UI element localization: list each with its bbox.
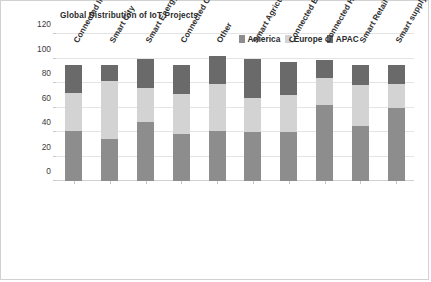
bar-segment-apac[interactable] <box>137 59 154 88</box>
gridline <box>56 58 414 59</box>
stacked-bar[interactable] <box>173 65 190 181</box>
y-axis-tick-label: 20 <box>42 142 51 152</box>
stacked-bar[interactable] <box>244 59 261 182</box>
bar-segment-europe[interactable] <box>244 98 261 132</box>
x-axis-tick-mark <box>146 181 147 184</box>
bar-segment-apac[interactable] <box>352 65 369 86</box>
x-axis-tick-label: Smart Retail <box>358 0 390 45</box>
bar-segment-europe[interactable] <box>65 93 82 131</box>
bar-segment-america[interactable] <box>244 132 261 181</box>
bar-segment-apac[interactable] <box>101 65 118 81</box>
x-axis-tick-mark <box>289 181 290 184</box>
x-axis-tick-mark <box>74 181 75 184</box>
bar-segment-america[interactable] <box>65 131 82 181</box>
x-axis-tick-mark <box>217 181 218 184</box>
plot-area: 120100806040200 Connected IndustrySmart … <box>56 34 414 181</box>
stacked-bar[interactable] <box>280 62 297 181</box>
stacked-bar[interactable] <box>65 65 82 181</box>
x-axis-tick-mark <box>360 181 361 184</box>
stacked-bar[interactable] <box>316 60 333 181</box>
stacked-bar[interactable] <box>101 65 118 181</box>
bar-segment-europe[interactable] <box>388 84 405 107</box>
y-axis-tick-label: 100 <box>37 44 51 54</box>
x-axis-tick-mark <box>325 181 326 184</box>
y-axis-tick-mark <box>53 82 56 83</box>
y-axis-tick-label: 0 <box>46 166 51 176</box>
stacked-bar[interactable] <box>352 65 369 181</box>
y-axis-tick-label: 120 <box>37 19 51 29</box>
bar-segment-america[interactable] <box>316 105 333 181</box>
bar-segment-apac[interactable] <box>244 59 261 98</box>
y-axis-tick-mark <box>53 107 56 108</box>
y-axis-tick-label: 80 <box>42 68 51 78</box>
x-axis-tick-mark <box>253 181 254 184</box>
bar-segment-europe[interactable] <box>101 81 118 140</box>
bar-segment-europe[interactable] <box>352 85 369 125</box>
y-axis-tick-label: 60 <box>42 93 51 103</box>
stacked-bar[interactable] <box>388 65 405 181</box>
bar-segment-apac[interactable] <box>209 56 226 84</box>
bar-segment-europe[interactable] <box>137 88 154 122</box>
bar-segment-apac[interactable] <box>280 62 297 95</box>
y-axis-tick-mark <box>53 33 56 34</box>
bar-segment-europe[interactable] <box>280 95 297 132</box>
bar-segment-apac[interactable] <box>173 65 190 94</box>
x-axis-tick-mark <box>181 181 182 184</box>
bar-segment-america[interactable] <box>280 132 297 181</box>
bar-segment-apac[interactable] <box>65 65 82 93</box>
stacked-bar[interactable] <box>137 59 154 182</box>
bar-segment-europe[interactable] <box>316 78 333 105</box>
y-axis-tick-mark <box>53 156 56 157</box>
x-axis-tick-label: Smart Energy <box>144 0 179 45</box>
chart-container: Global Distribution of IoT Projects Amer… <box>0 0 429 280</box>
bar-segment-apac[interactable] <box>316 60 333 78</box>
x-axis-tick-label: Connected Car <box>179 0 216 45</box>
bar-segment-europe[interactable] <box>173 94 190 134</box>
y-axis-tick-label: 40 <box>42 117 51 127</box>
bar-segment-apac[interactable] <box>388 65 405 85</box>
bar-segment-america[interactable] <box>209 131 226 181</box>
x-axis-tick-mark <box>110 181 111 184</box>
x-axis-tick-mark <box>396 181 397 184</box>
bar-segment-america[interactable] <box>173 134 190 181</box>
y-axis-tick-mark <box>53 58 56 59</box>
bar-segment-europe[interactable] <box>209 84 226 131</box>
y-axis-tick-mark <box>53 131 56 132</box>
y-axis-tick-mark <box>53 180 56 181</box>
bar-segment-america[interactable] <box>352 126 369 181</box>
bar-segment-america[interactable] <box>137 122 154 181</box>
bar-segment-america[interactable] <box>388 108 405 182</box>
bar-segment-america[interactable] <box>101 139 118 181</box>
stacked-bar[interactable] <box>209 56 226 181</box>
x-axis-tick-label: Smart supply chain <box>394 0 431 44</box>
